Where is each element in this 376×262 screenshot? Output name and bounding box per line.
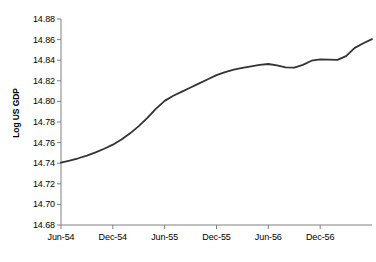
y-axis-tick-label: 14.88 xyxy=(11,14,55,24)
y-axis-tick-label: 14.78 xyxy=(11,117,55,127)
y-axis-tick-label: 14.74 xyxy=(11,158,55,168)
x-axis-tick-label: Dec-56 xyxy=(290,232,350,242)
chart-plot-svg xyxy=(0,0,376,262)
y-axis-tick-label: 14.80 xyxy=(11,96,55,106)
y-axis-tick-label: 14.84 xyxy=(11,55,55,65)
data-line-log-us-gdp xyxy=(61,39,372,163)
y-axis-ticks xyxy=(57,19,61,225)
axis-group xyxy=(61,19,372,225)
y-axis-tick-label: 14.72 xyxy=(11,179,55,189)
x-axis-ticks xyxy=(61,225,320,229)
y-axis-tick-label: 14.82 xyxy=(11,76,55,86)
data-series-group xyxy=(61,39,372,163)
chart-container: Log US GDP 14.8814.8614.8414.8214.8014.7… xyxy=(0,0,376,262)
y-axis-tick-label: 14.70 xyxy=(11,199,55,209)
y-axis-tick-label: 14.86 xyxy=(11,35,55,45)
y-axis-tick-label: 14.76 xyxy=(11,138,55,148)
y-axis-tick-label: 14.68 xyxy=(11,220,55,230)
